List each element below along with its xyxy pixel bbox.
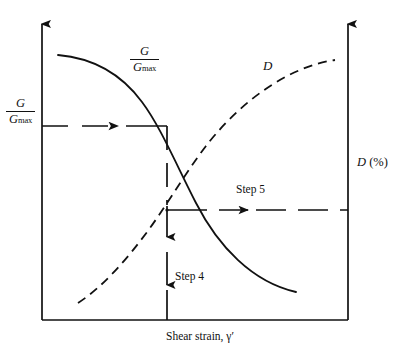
left-axis-fraction: G Gmax: [6, 97, 35, 126]
modulus-curve-denominator-base: G: [133, 60, 142, 74]
modulus-reduction-curve: [58, 55, 296, 292]
right-axis-label-symbol: D: [357, 155, 366, 169]
modulus-curve-label: G Gmax: [130, 45, 159, 75]
step5-indicator: [165, 208, 348, 211]
modulus-curve-denominator-subscript: max: [142, 63, 156, 73]
figure-canvas: G Gmax G Gmax D D (%) Step 5 Step 4 Shea…: [0, 0, 400, 359]
left-axis-denominator: Gmax: [6, 113, 35, 126]
modulus-curve-numerator: G: [130, 45, 159, 58]
modulus-curve-denominator: Gmax: [130, 61, 159, 74]
right-axis-label: D (%): [357, 156, 388, 169]
left-axis-label: G Gmax: [6, 97, 35, 127]
damping-curve-label: D: [263, 59, 272, 73]
right-axis-label-unit: (%): [366, 155, 388, 169]
modulus-curve-fraction: G Gmax: [130, 45, 159, 74]
left-axis-numerator: G: [6, 97, 35, 110]
damping-curve: [78, 60, 335, 303]
left-axis-denominator-base: G: [9, 112, 18, 126]
x-axis-label: Shear strain, γ′: [0, 330, 400, 342]
step5-label: Step 5: [236, 183, 265, 195]
step5-origin-dot: [165, 208, 168, 211]
diagram-svg: [0, 0, 400, 359]
left-axis-denominator-subscript: max: [18, 115, 32, 125]
step4-label: Step 4: [175, 270, 204, 282]
